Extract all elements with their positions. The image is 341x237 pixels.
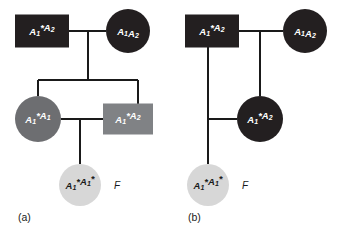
allele-letter: A [114, 113, 122, 124]
pedigree-figure: A1*A2A1A2A1*A1A1*A2A1*A1*FA1*A2A1A2A1*A2… [0, 0, 341, 237]
allele-letter: A [129, 110, 137, 121]
allele-letter: A [127, 27, 135, 38]
allele-letter: A [193, 179, 201, 190]
allele-subscript: 2 [50, 26, 55, 33]
allele-subscript: 1 [47, 114, 51, 121]
allele-letter: A [207, 176, 215, 187]
pedigree-individual-founder-female[interactable]: A1A2 [283, 9, 327, 53]
allele-letter: A [246, 113, 254, 124]
inbreeding-coefficient-label: F [242, 180, 249, 191]
pedigree-canvas: A1*A2A1A2A1*A1A1*A2A1*A1*FA1*A2A1A2A1*A2… [0, 0, 341, 237]
allele-letter: A [79, 176, 87, 187]
pedigree-individual-founder-female[interactable]: A1A2 [106, 9, 150, 53]
allele-letter: A [198, 25, 206, 36]
inbreeding-coefficient-label: F [114, 180, 121, 191]
allele-subscript: 2 [268, 114, 273, 121]
allele-letter: A [116, 25, 124, 36]
pedigree-individual-generation2-male[interactable]: A1*A2 [103, 104, 153, 135]
allele-letter: A [261, 110, 269, 121]
allele-subscript: 2 [134, 32, 139, 39]
pedigree-individual-generation2-female[interactable]: A1*A1 [15, 96, 61, 142]
allele-subscript: 2 [136, 114, 141, 121]
allele-letter: A [43, 22, 51, 33]
pedigree-individual-founder-male[interactable]: A1*A2 [15, 15, 69, 48]
allele-letter: A [28, 25, 36, 36]
panel-caption-panel-b: (b) [188, 211, 201, 223]
allele-letter: A [24, 113, 32, 124]
allele-subscript: 2 [220, 26, 225, 33]
allele-letter: A [39, 110, 47, 121]
panel-caption-panel-a: (a) [18, 211, 31, 223]
allele-letter: A [213, 22, 221, 33]
allele-letter: A [293, 25, 301, 36]
allele-letter: A [65, 179, 73, 190]
pedigree-individual-generation2-female[interactable]: A1*A2 [237, 96, 283, 142]
pedigree-individual-founder-male[interactable]: A1*A2 [185, 15, 239, 48]
allele-letter: A [304, 27, 312, 38]
allele-subscript: 2 [311, 32, 316, 39]
